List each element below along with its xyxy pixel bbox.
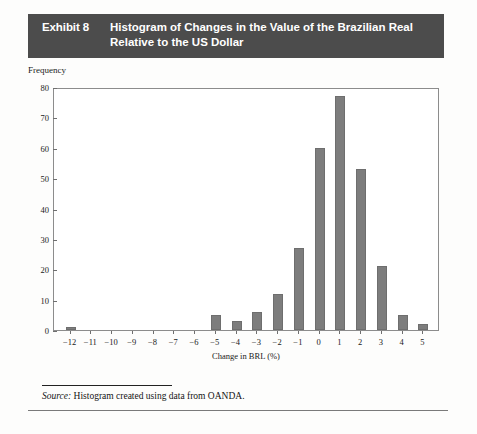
y-axis-tick: [53, 240, 57, 241]
x-axis-tick: [298, 331, 299, 334]
exhibit-title-line-1: Histogram of Changes in the Value of the…: [110, 21, 413, 33]
x-axis-tick: [132, 331, 133, 334]
y-axis-tick: [53, 149, 57, 150]
bottom-divider: [28, 410, 448, 411]
x-axis-tick: [381, 331, 382, 334]
x-axis-tick: [194, 331, 195, 334]
exhibit-header-banner: Exhibit 8 Histogram of Changes in the Va…: [28, 14, 444, 58]
x-axis-tick: [339, 331, 340, 334]
source-divider: [42, 385, 172, 386]
x-axis-ticks: [53, 331, 439, 336]
exhibit-page: Exhibit 8 Histogram of Changes in the Va…: [0, 0, 477, 434]
y-axis-tick: [53, 301, 57, 302]
exhibit-title-line-2: Relative to the US Dollar: [110, 36, 244, 48]
x-axis-tick: [402, 331, 403, 334]
x-axis-tick: [111, 331, 112, 334]
y-axis-tick: [53, 118, 57, 119]
source-label: Source:: [42, 391, 71, 401]
x-axis-tick: [173, 331, 174, 334]
source-text: Histogram created using data from OANDA.: [74, 391, 245, 401]
x-axis-tick: [70, 331, 71, 334]
x-axis-tick: [277, 331, 278, 334]
x-axis-tick: [90, 331, 91, 334]
x-axis-title: Change in BRL (%): [53, 351, 439, 361]
x-axis-tick: [360, 331, 361, 334]
y-axis-tick: [53, 270, 57, 271]
x-axis-tick: [319, 331, 320, 334]
source-note: Source: Histogram created using data fro…: [42, 391, 245, 401]
x-axis-tick-labels: −12−11−10−9−8−7−6−5−4−3−2−1012345: [53, 337, 439, 349]
x-axis-tick: [236, 331, 237, 334]
y-axis-tick: [53, 210, 57, 211]
y-axis-tick: [53, 179, 57, 180]
x-axis-tick: [153, 331, 154, 334]
y-axis-ticks: [28, 62, 444, 362]
y-axis-tick: [53, 88, 57, 89]
x-axis-tick: [215, 331, 216, 334]
x-axis-tick-label: 5: [409, 337, 435, 347]
x-axis-tick: [422, 331, 423, 334]
histogram-chart: Frequency 80706050403020100 −12−11−10−9−…: [28, 62, 444, 362]
exhibit-number-label: Exhibit 8: [42, 20, 89, 33]
exhibit-title: Histogram of Changes in the Value of the…: [110, 20, 413, 49]
x-axis-tick: [256, 331, 257, 334]
